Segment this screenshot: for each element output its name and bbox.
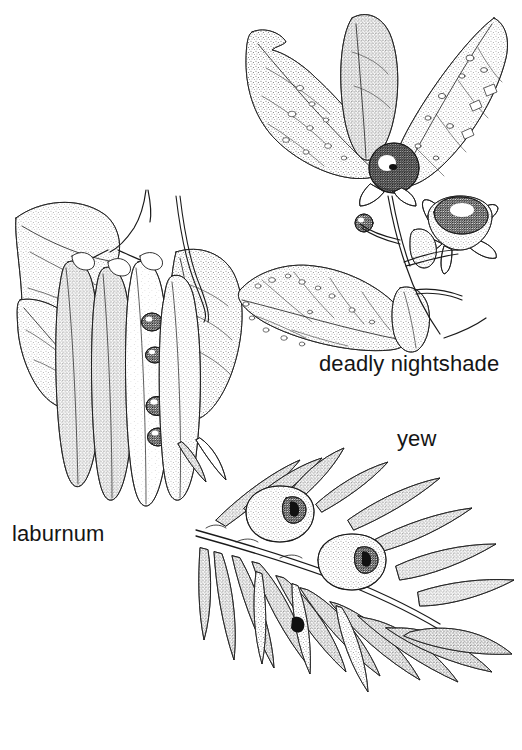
yew-aril-2 — [318, 534, 386, 590]
caption-laburnum: laburnum — [12, 521, 105, 547]
nightshade-leaflet-small — [392, 287, 430, 352]
nightshade-berry-main — [369, 143, 419, 193]
illustration-plate: laburnum deadly nightshade yew — [0, 0, 522, 750]
laburnum-seed — [142, 313, 163, 331]
caption-deadly-nightshade: deadly nightshade — [319, 351, 499, 377]
caption-yew: yew — [397, 426, 436, 452]
yew-aril-1 — [246, 486, 314, 542]
